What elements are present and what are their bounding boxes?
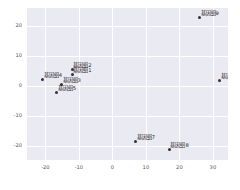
y-tick-label: -10 — [8, 114, 22, 119]
x-tick-label: 30 — [210, 165, 217, 170]
gridline-vertical — [179, 8, 180, 160]
gridline-horizontal — [27, 116, 228, 117]
data-point-label: 基因组5 — [58, 86, 76, 91]
x-tick-label: -10 — [75, 165, 83, 170]
y-tick-label: 20 — [8, 23, 22, 28]
data-point-label: 基因组2 — [73, 63, 91, 68]
gridline-vertical — [45, 8, 46, 160]
x-tick-label: 0 — [111, 165, 114, 170]
gridline-vertical — [213, 8, 214, 160]
y-tick-label: 10 — [8, 54, 22, 59]
scatter-chart-figure: 基因组1基因组2基因组3基因组4基因组5基因组6基因组7基因组8基因组9 -20… — [0, 0, 240, 190]
x-tick-label: 10 — [143, 165, 150, 170]
gridline-vertical — [79, 8, 80, 160]
gridline-horizontal — [27, 56, 228, 57]
data-point-label: 基因组4 — [44, 73, 62, 78]
y-tick-label: 0 — [8, 84, 22, 89]
x-tick-label: -20 — [41, 165, 49, 170]
data-point-label: 基因组6 — [221, 74, 228, 79]
data-point-label: 基因组1 — [73, 68, 91, 73]
data-point-label: 基因组9 — [201, 11, 219, 16]
y-tick-label: -20 — [8, 144, 22, 149]
data-point-label: 基因组7 — [137, 135, 155, 140]
gridline-vertical — [112, 8, 113, 160]
data-point-label: 基因组8 — [170, 143, 188, 148]
data-point-label: 基因组3 — [63, 78, 81, 83]
gridline-horizontal — [27, 26, 228, 27]
x-tick-label: 20 — [176, 165, 183, 170]
gridline-horizontal — [27, 146, 228, 147]
plot-area: 基因组1基因组2基因组3基因组4基因组5基因组6基因组7基因组8基因组9 — [27, 8, 228, 160]
